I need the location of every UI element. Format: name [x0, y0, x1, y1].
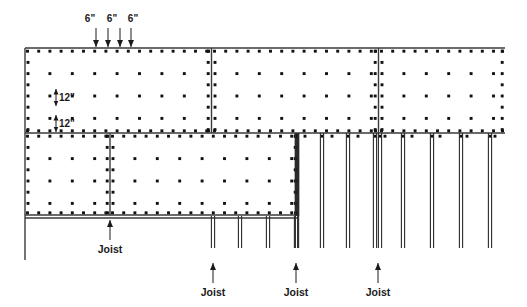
nail-dot	[466, 135, 469, 138]
nail-dot	[178, 202, 181, 205]
nail-dot	[93, 72, 96, 75]
nail-dot	[481, 50, 484, 53]
nail-dot	[138, 95, 141, 98]
nail-dot	[138, 50, 141, 53]
nail-dot	[290, 202, 293, 205]
nail-dot	[492, 129, 495, 132]
nail-dot	[71, 157, 74, 160]
nail-dot	[290, 211, 293, 214]
nail-dot	[207, 117, 210, 120]
nail-dot	[106, 146, 109, 149]
nail-dot	[183, 95, 186, 98]
nail-dot	[106, 168, 109, 171]
exposed-joists-right	[295, 133, 491, 248]
nail-dot	[224, 50, 227, 53]
nail-dot	[48, 135, 51, 138]
nail-dot	[269, 50, 272, 53]
nail-dot	[234, 211, 237, 214]
diagram-canvas: 6" 6" 6" 12" 12" Joist Joist Joist Joist	[0, 0, 527, 307]
nail-dot	[381, 61, 384, 64]
nail-dot	[290, 157, 293, 160]
nail-dot	[93, 129, 96, 132]
nail-dot	[112, 168, 115, 171]
nail-dot	[314, 129, 317, 132]
nail-dot	[93, 180, 96, 183]
nail-dot	[60, 211, 63, 214]
nail-dot	[104, 50, 107, 53]
joist-label-1: Joist	[98, 243, 123, 255]
nail-dot	[149, 129, 152, 132]
nail-dot	[425, 72, 428, 75]
nail-dot	[501, 95, 504, 98]
nail-dot	[48, 50, 51, 53]
nail-dot	[359, 129, 362, 132]
nail-dot	[207, 61, 210, 64]
nail-dot	[245, 180, 248, 183]
edge-spacing-label-1: 6"	[85, 13, 96, 24]
nail-dot	[280, 50, 283, 53]
nail-dot	[201, 135, 204, 138]
nail-dot	[431, 135, 434, 138]
nail-dot	[183, 117, 186, 120]
nail-dot	[27, 61, 30, 64]
nail-dot	[374, 61, 377, 64]
nail-dot	[425, 95, 428, 98]
nail-dot	[116, 50, 119, 53]
nail-dots	[26, 50, 504, 215]
nail-dot	[112, 157, 115, 160]
nail-dot	[27, 72, 30, 75]
nail-dot	[303, 50, 306, 53]
nail-dot	[370, 72, 373, 75]
nail-dot	[374, 117, 377, 120]
nail-dot	[447, 95, 450, 98]
nail-dot	[268, 180, 271, 183]
nail-dot	[223, 157, 226, 160]
nail-dot	[149, 50, 152, 53]
nail-dot	[160, 95, 163, 98]
panel-seams-upper	[212, 48, 379, 133]
nail-dot	[245, 157, 248, 160]
nail-dot	[138, 117, 141, 120]
exposed-joist	[373, 133, 376, 248]
nail-dot	[111, 135, 114, 138]
nail-dot	[116, 95, 119, 98]
nail-dot	[235, 50, 238, 53]
nail-dot	[160, 129, 163, 132]
joist-stub	[238, 216, 241, 248]
nail-dot	[235, 117, 238, 120]
nail-dot	[37, 135, 40, 138]
nail-dot	[379, 135, 382, 138]
nail-dot	[391, 50, 394, 53]
nail-dot	[291, 129, 294, 132]
nail-dot	[116, 117, 119, 120]
sheathing-outlines	[25, 48, 505, 260]
nail-dot	[212, 135, 215, 138]
nail-dot	[183, 129, 186, 132]
nail-dot	[106, 202, 109, 205]
nail-dot	[258, 50, 261, 53]
nail-dot	[374, 95, 377, 98]
exposed-joist	[430, 133, 433, 248]
nail-dot	[268, 157, 271, 160]
nail-dot	[370, 117, 373, 120]
nail-dot	[207, 106, 210, 109]
nail-dot	[156, 157, 159, 160]
nail-dot	[374, 135, 377, 138]
joist-callout-arrows	[110, 220, 378, 283]
nail-dot	[214, 61, 217, 64]
nail-dot	[145, 211, 148, 214]
nail-dot	[347, 135, 350, 138]
nail-dot	[194, 129, 197, 132]
nail-dot	[374, 72, 377, 75]
nail-dot	[82, 129, 85, 132]
nail-dot	[60, 135, 63, 138]
nail-dot	[156, 211, 159, 214]
nail-dot	[470, 117, 473, 120]
exposed-joist	[346, 133, 349, 248]
nail-dot	[381, 106, 384, 109]
exposed-joist	[488, 133, 491, 248]
nail-dot	[447, 117, 450, 120]
nail-dot	[494, 135, 497, 138]
nail-dot	[458, 50, 461, 53]
nail-dot	[425, 50, 428, 53]
